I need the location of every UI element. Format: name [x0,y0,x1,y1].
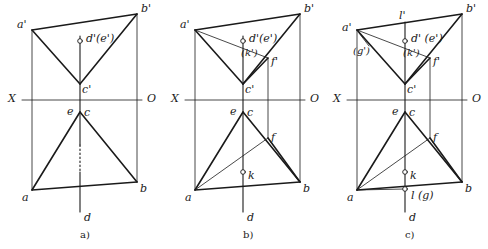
label-k-prime: (k') [241,48,258,58]
edge-a-c [32,112,80,190]
edge-bp-cp [80,14,137,84]
point-marker-k [241,170,246,175]
label-c-prime: c' [82,84,91,95]
figure-caption-b: b) [243,229,253,240]
figure-caption-a: a) [80,229,90,240]
label-b: b [465,183,472,194]
edge-a-c [357,112,405,190]
label-d-e-prime: d' (e') [411,33,443,44]
edge-a-b [195,182,300,190]
label-x-axis: X [333,93,341,104]
label-f-prime: f' [433,56,440,67]
figure-a: X O a' b' d'(e') c' e c a b d a) [0,0,163,249]
point-marker-de-prime [403,39,408,44]
label-a: a [185,192,192,203]
edge-a-b [357,182,462,190]
edge-f-b [268,138,300,182]
label-a: a [22,192,29,203]
figure-a-drawing [0,0,163,249]
label-l-g: l (g) [411,190,434,201]
label-b-prime: b' [466,3,476,14]
label-b-prime: b' [141,3,151,14]
edge-a-c [195,112,243,190]
edge-a-b [32,182,137,190]
label-a-prime: a' [342,22,352,33]
label-d: d [247,212,254,223]
label-c-prime: c' [245,84,254,95]
edge-ap-bp [195,14,300,30]
label-b: b [140,183,147,194]
label-c: c [247,107,253,118]
label-x-axis: X [171,93,179,104]
point-marker-l-g [403,187,408,192]
label-d-e-prime: d'(e') [86,33,114,44]
label-e: e [230,106,237,117]
edge-cp-fp [405,58,430,84]
label-a: a [347,192,354,203]
edge-ap-bp [32,14,137,30]
label-b-prime: b' [304,3,314,14]
figure-b-drawing [163,0,326,249]
label-d: d [84,212,91,223]
label-x-axis: X [8,93,16,104]
edge-ap-cp [32,30,80,84]
point-marker-de-prime [241,39,246,44]
label-f-prime: f' [271,56,278,67]
label-d-e-prime: d'(e') [249,33,277,44]
label-e: e [67,106,74,117]
edge-ap-cp [195,30,243,84]
label-g-prime: (g') [353,46,370,56]
label-c: c [409,107,415,118]
figure-caption-c: c) [405,229,415,240]
edge-cp-fp [243,58,268,84]
point-marker-de-prime [78,39,83,44]
label-c: c [84,107,90,118]
auxiliary-line-a-f [195,138,268,190]
label-k: k [248,170,255,181]
edge-ap-cp [357,30,405,84]
label-a-prime: a' [17,19,27,30]
edge-f-b [430,138,462,182]
label-e: e [392,106,399,117]
auxiliary-line-a-f [357,138,430,190]
label-d: d [409,212,416,223]
label-a-prime: a' [180,19,190,30]
label-f: f [433,132,437,143]
label-b: b [303,183,310,194]
figure-c: l' X O a' b' d' (e') (g') (k') f' c' e c… [325,0,488,249]
edge-b-c [80,112,137,182]
label-l-prime: l' [399,10,406,21]
edge-ap-bp [357,14,462,30]
figure-b: X O a' b' d'(e') (k') f' c' e c f k a b … [163,0,326,249]
label-c-prime: c' [407,84,416,95]
label-o-axis: O [147,93,156,104]
point-marker-k [403,170,408,175]
label-o-axis: O [310,93,319,104]
label-o-axis: O [472,93,481,104]
label-k: k [410,170,417,181]
label-f: f [271,132,275,143]
label-k-prime: (k') [403,48,420,58]
figure-c-drawing [325,0,488,249]
